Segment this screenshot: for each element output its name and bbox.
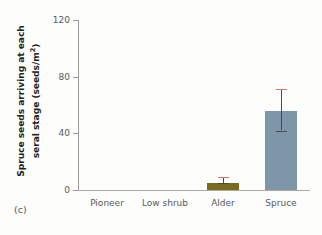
error-bar-cap-top — [276, 89, 287, 90]
y-axis-label-superscript: 2 — [29, 48, 37, 52]
y-axis-line — [78, 20, 79, 190]
y-axis-label-line1: Spruce seeds arriving at each — [15, 25, 26, 177]
y-axis-tick-label: 120 — [53, 15, 70, 25]
panel-letter: (c) — [14, 204, 27, 215]
error-bar — [281, 89, 282, 130]
bar — [207, 183, 239, 190]
y-axis-label-container: Spruce seeds arriving at each seral stag… — [0, 0, 52, 200]
x-axis-tick-label: Alder — [211, 198, 235, 208]
y-axis-label-line2-pre: seral stage (seeds/m — [30, 52, 41, 158]
error-bar-cap-bottom — [218, 183, 229, 184]
y-axis-tick-label: 80 — [59, 72, 70, 82]
plot-area: 04080120 PioneerLow shrubAlderSpruce — [78, 20, 310, 190]
y-axis-tick-label: 40 — [59, 128, 70, 138]
x-axis-tick-label: Low shrub — [142, 198, 188, 208]
y-axis-label-line2-post: ) — [30, 44, 41, 48]
y-axis-label-line2: seral stage (seeds/m2) — [27, 6, 42, 196]
y-axis-tick — [73, 20, 78, 21]
y-axis-tick — [73, 190, 78, 191]
x-axis-tick-label: Pioneer — [90, 198, 124, 208]
figure-panel-c: Spruce seeds arriving at each seral stag… — [0, 0, 322, 235]
y-axis-tick — [73, 133, 78, 134]
x-axis-line — [78, 190, 310, 191]
error-bar-cap-top — [218, 177, 229, 178]
y-axis-label: Spruce seeds arriving at each seral stag… — [14, 6, 42, 196]
x-axis-tick-label: Spruce — [265, 198, 296, 208]
y-axis-tick — [73, 77, 78, 78]
y-axis-tick-label: 0 — [64, 185, 70, 195]
error-bar-cap-bottom — [276, 131, 287, 132]
